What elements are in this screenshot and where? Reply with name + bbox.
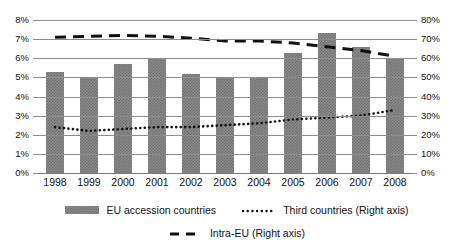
y-tick-mark-left bbox=[33, 154, 38, 155]
legend-label: Third countries (Right axis) bbox=[283, 204, 408, 216]
gridline bbox=[38, 58, 412, 59]
chart-legend: EU accession countries Third countries (… bbox=[0, 198, 474, 244]
legend-item-eu-accession[interactable]: EU accession countries bbox=[65, 204, 216, 216]
y-axis-tick-label-left: 4% bbox=[0, 92, 29, 102]
y-axis-tick-label-right: 60% bbox=[421, 53, 440, 63]
y-axis-tick-label-right: 80% bbox=[421, 15, 440, 25]
y-tick-mark-right bbox=[412, 173, 417, 174]
bar-swatch-icon bbox=[65, 206, 99, 214]
y-axis-tick-label-left: 6% bbox=[0, 53, 29, 63]
y-axis-tick-label-left: 0% bbox=[0, 168, 29, 178]
legend-row-2: Intra-EU (Right axis) bbox=[0, 221, 474, 244]
y-tick-mark-right bbox=[412, 58, 417, 59]
y-tick-mark-left bbox=[33, 116, 38, 117]
legend-item-intra-eu[interactable]: Intra-EU (Right axis) bbox=[169, 224, 305, 242]
y-tick-mark-right bbox=[412, 77, 417, 78]
x-axis-labels: 1998199920002001200220032004200520062007… bbox=[38, 176, 412, 192]
y-axis-tick-label-right: 40% bbox=[421, 92, 440, 102]
gridline bbox=[38, 154, 412, 155]
y-tick-mark-right bbox=[412, 135, 417, 136]
y-axis-tick-label-left: 3% bbox=[0, 111, 29, 121]
y-tick-mark-left bbox=[33, 39, 38, 40]
gridline bbox=[38, 135, 412, 136]
y-axis-tick-label-right: 0% bbox=[421, 168, 435, 178]
dotted-line-swatch-icon bbox=[242, 201, 276, 219]
y-tick-mark-left bbox=[33, 173, 38, 174]
y-axis-tick-label-right: 10% bbox=[421, 149, 440, 159]
y-axis-tick-label-left: 7% bbox=[0, 34, 29, 44]
y-axis-tick-label-right: 30% bbox=[421, 111, 440, 121]
gridline bbox=[38, 97, 412, 98]
chart-figure: 1998199920002001200220032004200520062007… bbox=[0, 0, 474, 248]
y-axis-tick-label-left: 2% bbox=[0, 130, 29, 140]
gridline bbox=[38, 77, 412, 78]
y-tick-mark-right bbox=[412, 154, 417, 155]
legend-row-1: EU accession countries Third countries (… bbox=[0, 198, 474, 221]
x-axis-tick-label: 2008 bbox=[375, 176, 415, 188]
y-tick-mark-right bbox=[412, 20, 417, 21]
legend-item-third-countries[interactable]: Third countries (Right axis) bbox=[242, 201, 408, 219]
legend-label: EU accession countries bbox=[106, 204, 216, 216]
gridline bbox=[38, 173, 412, 174]
y-tick-mark-left bbox=[33, 97, 38, 98]
y-tick-mark-left bbox=[33, 58, 38, 59]
gridline bbox=[38, 20, 412, 21]
gridline bbox=[38, 116, 412, 117]
y-axis-tick-label-right: 70% bbox=[421, 34, 440, 44]
y-tick-mark-left bbox=[33, 77, 38, 78]
dashed-line-swatch-icon bbox=[169, 224, 203, 242]
y-axis-tick-label-left: 5% bbox=[0, 72, 29, 82]
plot-area bbox=[38, 20, 412, 173]
y-axis-tick-label-left: 1% bbox=[0, 149, 29, 159]
y-tick-mark-right bbox=[412, 97, 417, 98]
y-tick-mark-left bbox=[33, 20, 38, 21]
y-tick-mark-left bbox=[33, 135, 38, 136]
legend-label: Intra-EU (Right axis) bbox=[210, 227, 305, 239]
y-axis-tick-label-right: 20% bbox=[421, 130, 440, 140]
dotted-line-third-countries bbox=[55, 110, 395, 131]
y-tick-mark-right bbox=[412, 39, 417, 40]
y-tick-mark-right bbox=[412, 116, 417, 117]
y-axis-tick-label-left: 8% bbox=[0, 15, 29, 25]
y-axis-tick-label-right: 50% bbox=[421, 72, 440, 82]
gridline bbox=[38, 39, 412, 40]
